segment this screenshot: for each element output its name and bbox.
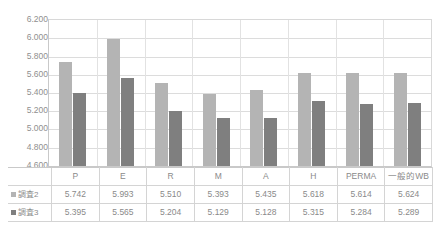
bar <box>408 103 421 166</box>
y-axis-tick-label: 6.200 <box>4 15 48 24</box>
bar <box>346 73 359 166</box>
bar <box>217 118 230 166</box>
bar-group <box>97 20 145 166</box>
table-cell-value: 5.395 <box>52 204 100 222</box>
bar <box>394 73 407 166</box>
category-separator <box>192 20 193 166</box>
table-cell-value: 5.618 <box>290 186 338 204</box>
category-separator <box>383 20 384 166</box>
bar <box>169 111 182 166</box>
table-cell-value: 5.284 <box>337 204 385 222</box>
column-header: R <box>147 168 195 186</box>
table-cell-value: 5.624 <box>385 186 433 204</box>
bar <box>59 62 72 166</box>
table-header-row: PERMAHPERMA一般的WB <box>8 168 433 186</box>
column-header: H <box>290 168 338 186</box>
table-row: 調査35.3955.5655.2045.1295.1285.3155.2845.… <box>8 204 433 222</box>
category-separator <box>240 20 241 166</box>
bars-layer <box>49 20 431 166</box>
table-cell-value: 5.393 <box>194 186 242 204</box>
bar-group <box>49 20 97 166</box>
table-cell-value: 5.128 <box>242 204 290 222</box>
bar <box>107 39 120 166</box>
y-axis-tick-label: 5.600 <box>4 70 48 79</box>
bar <box>73 93 86 166</box>
table-cell-value: 5.614 <box>337 186 385 204</box>
category-separator <box>97 20 98 166</box>
bar-group <box>383 20 431 166</box>
column-header: PERMA <box>337 168 385 186</box>
category-separator <box>288 20 289 166</box>
legend-label: 調査2 <box>18 190 38 199</box>
bar-group <box>336 20 384 166</box>
table-cell-value: 5.565 <box>99 204 147 222</box>
column-header: E <box>99 168 147 186</box>
table-cell-value: 5.289 <box>385 204 433 222</box>
column-header: P <box>52 168 100 186</box>
bar <box>298 73 311 166</box>
bar <box>203 94 216 166</box>
legend-swatch-icon <box>11 192 16 197</box>
table-cell-value: 5.129 <box>194 204 242 222</box>
legend-swatch-icon <box>11 210 16 215</box>
bar <box>155 83 168 166</box>
legend-entry: 調査2 <box>8 186 52 204</box>
bar-group <box>192 20 240 166</box>
table-corner-cell <box>8 168 52 186</box>
column-header: M <box>194 168 242 186</box>
category-separator <box>145 20 146 166</box>
legend-label: 調査3 <box>18 208 38 217</box>
table-cell-value: 5.435 <box>242 186 290 204</box>
y-axis-tick-label: 5.400 <box>4 88 48 97</box>
y-axis-tick-label: 5.000 <box>4 124 48 133</box>
y-axis-tick-label: 5.800 <box>4 52 48 61</box>
y-axis-tick-label: 4.800 <box>4 143 48 152</box>
column-header: A <box>242 168 290 186</box>
legend-entry: 調査3 <box>8 204 52 222</box>
bar-chart-widget: 6.2006.0005.8005.6005.4005.2005.0004.800… <box>0 0 444 234</box>
bar <box>360 104 373 166</box>
y-axis-tick-label: 5.200 <box>4 106 48 115</box>
bar <box>312 101 325 166</box>
column-header: 一般的WB <box>385 168 433 186</box>
table-cell-value: 5.510 <box>147 186 195 204</box>
table-row: 調査25.7425.9935.5105.3935.4355.6185.6145.… <box>8 186 433 204</box>
table-cell-value: 5.315 <box>290 204 338 222</box>
table-cell-value: 5.742 <box>52 186 100 204</box>
bar <box>250 90 263 166</box>
bar <box>121 78 134 166</box>
bar-group <box>145 20 193 166</box>
bar <box>264 118 277 166</box>
table-cell-value: 5.993 <box>99 186 147 204</box>
y-axis-tick-label: 6.000 <box>4 33 48 42</box>
bar-group <box>240 20 288 166</box>
bar-group <box>288 20 336 166</box>
table-cell-value: 5.204 <box>147 204 195 222</box>
data-table: PERMAHPERMA一般的WB調査25.7425.9935.5105.3935… <box>8 167 433 222</box>
category-separator <box>336 20 337 166</box>
